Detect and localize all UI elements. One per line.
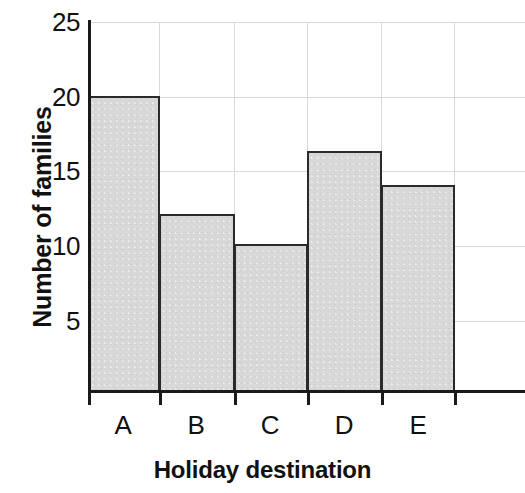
bar-E: [381, 185, 455, 392]
bar-D: [307, 151, 382, 392]
x-tick-2: [234, 392, 237, 405]
y-axis-line: [88, 20, 91, 394]
bar-chart: Number of families 25 20 15 10 5: [0, 0, 525, 493]
x-tick-label-B: B: [159, 410, 233, 440]
x-tick-label-E: E: [381, 410, 455, 440]
x-tick-1: [159, 392, 162, 405]
bar-B: [159, 214, 235, 392]
y-tick-label-15: 15: [34, 158, 80, 184]
x-tick-3: [307, 392, 310, 405]
y-tick-label-25: 25: [34, 9, 80, 35]
x-tick-label-D: D: [307, 410, 381, 440]
y-tick-label-20: 20: [34, 84, 80, 110]
x-tick-label-A: A: [86, 410, 160, 440]
bar-A: [88, 96, 160, 392]
y-tick-label-10: 10: [34, 233, 80, 259]
plot-area: [88, 22, 525, 392]
bar-C: [234, 244, 308, 392]
x-tick-0: [88, 392, 91, 405]
x-tick-5: [454, 392, 457, 405]
y-tick-label-5: 5: [34, 308, 80, 334]
x-axis-title: Holiday destination: [0, 455, 525, 485]
bars-layer: [88, 22, 525, 392]
x-tick-label-C: C: [233, 410, 307, 440]
x-tick-4: [381, 392, 384, 405]
y-axis-tick-labels: 25 20 15 10 5: [34, 0, 80, 493]
